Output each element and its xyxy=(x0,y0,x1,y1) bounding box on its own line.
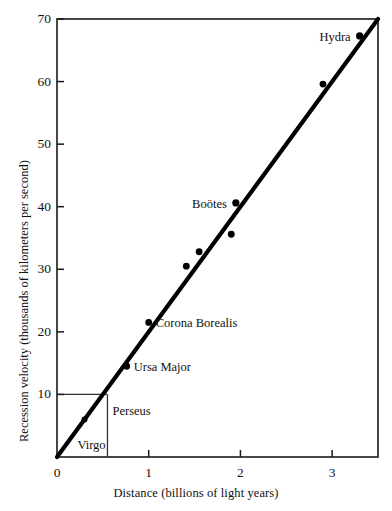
y-tick-label-60: 60 xyxy=(38,75,52,89)
y-tick-label-10: 10 xyxy=(38,387,52,401)
trend-line xyxy=(57,19,378,457)
chart-canvas xyxy=(0,0,392,511)
axis-ticks xyxy=(57,19,332,457)
data-point-bootes xyxy=(232,199,239,206)
hubble-law-chart: 10203040506070 0123 VirgoPerseusUrsa Maj… xyxy=(0,0,392,511)
data-point-ursa-major xyxy=(123,363,130,370)
x-tick-label-1: 1 xyxy=(129,466,169,480)
x-tick-label-2: 2 xyxy=(220,466,260,480)
data-point-perseus xyxy=(82,416,88,422)
hubble-law-fit xyxy=(57,19,378,457)
x-tick-label-3: 3 xyxy=(312,466,352,480)
point-label-bootes: Boötes xyxy=(192,198,227,211)
y-tick-label-70: 70 xyxy=(38,12,52,26)
y-tick-label-20: 20 xyxy=(38,325,52,339)
data-point-unlabeled-2 xyxy=(196,248,203,255)
data-point-unlabeled-1 xyxy=(183,263,190,270)
point-label-virgo: Virgo xyxy=(77,439,105,452)
y-axis-title: Recession velocity (thousands of kilomet… xyxy=(17,160,32,442)
data-point-unlabeled-3 xyxy=(228,231,235,238)
data-point-corona-borealis xyxy=(145,319,152,326)
data-point-unlabeled-4 xyxy=(320,81,327,88)
point-label-perseus: Perseus xyxy=(113,405,151,418)
y-tick-label-30: 30 xyxy=(38,262,52,276)
x-axis-title: Distance (billions of light years) xyxy=(0,486,392,501)
y-tick-label-50: 50 xyxy=(38,137,52,151)
y-tick-label-40: 40 xyxy=(38,200,52,214)
point-label-hydra: Hydra xyxy=(319,31,350,44)
point-label-corona-borealis: Corona Borealis xyxy=(156,317,238,330)
data-point-hydra xyxy=(356,32,363,39)
point-label-ursa-major: Ursa Major xyxy=(134,361,191,374)
x-tick-label-0: 0 xyxy=(37,466,77,480)
